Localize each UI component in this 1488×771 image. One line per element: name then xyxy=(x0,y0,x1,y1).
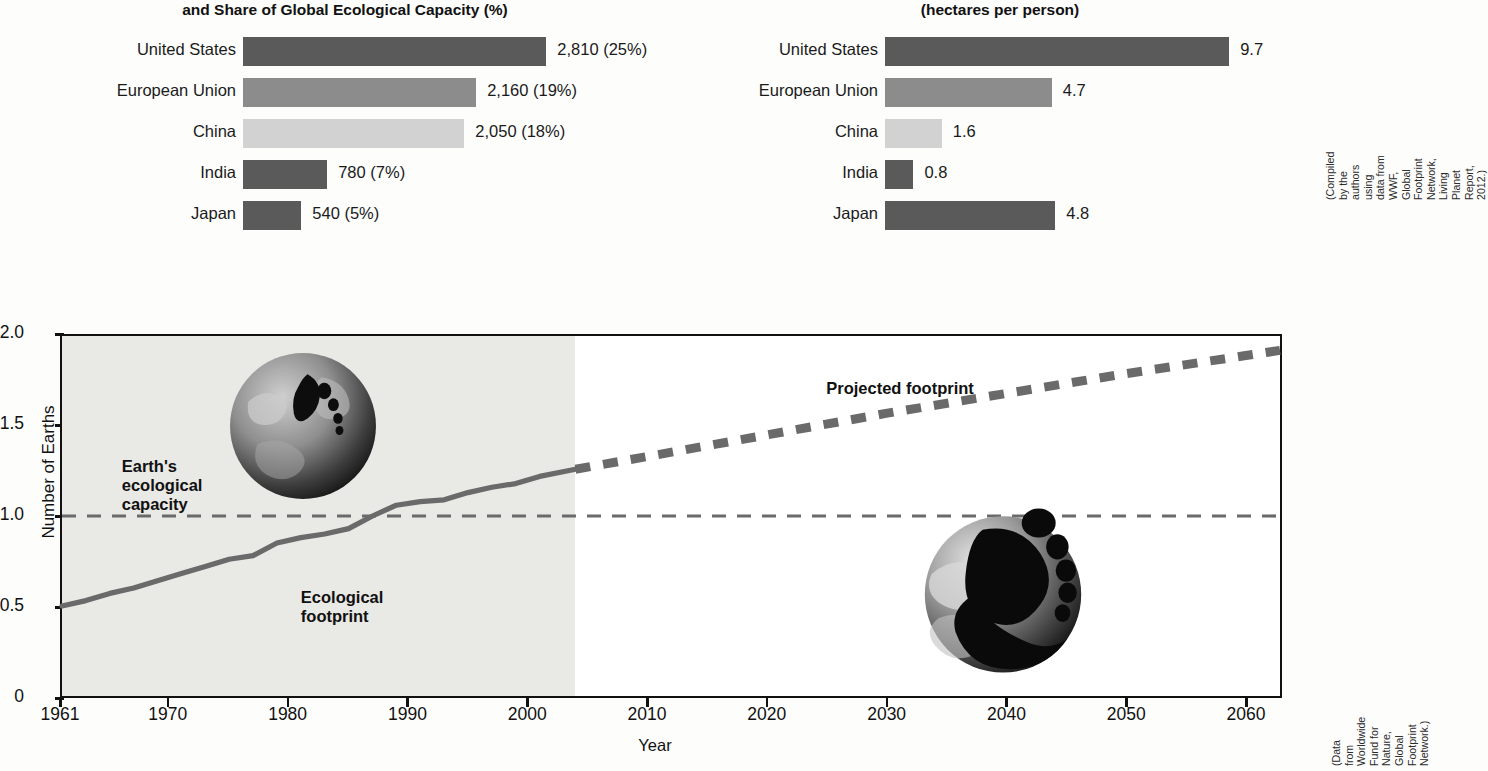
bar-value-label: 540 (5%) xyxy=(312,204,379,223)
bar-value-label: 780 (7%) xyxy=(338,163,405,182)
bar-category-label: United States xyxy=(690,40,878,59)
x-axis-tick-mark xyxy=(167,698,170,707)
x-axis-tick-mark xyxy=(526,698,529,707)
projected-footprint-line xyxy=(575,350,1280,469)
annotation-earths-capacity: Earth's ecological capacity xyxy=(122,457,203,514)
bar-segment xyxy=(885,37,1229,66)
bar-category-label: European Union xyxy=(690,81,878,100)
x-axis-tick-label: 1961 xyxy=(20,704,100,725)
bar-value-label: 2,050 (18%) xyxy=(475,122,565,141)
bar-value-label: 9.7 xyxy=(1240,40,1263,59)
bar-segment xyxy=(885,160,913,189)
x-axis-tick-mark xyxy=(766,698,769,707)
bar-segment xyxy=(885,201,1055,230)
bar-category-label: India xyxy=(0,163,236,182)
left-chart-bar-rows: United States2,810 (25%)European Union2,… xyxy=(0,36,690,241)
globe-footprint-icon-top xyxy=(227,350,379,502)
bar-category-label: China xyxy=(690,122,878,141)
bar-category-label: Japan xyxy=(0,204,236,223)
y-axis-tick-label: 1.5 xyxy=(0,413,24,434)
annotation-ecological-footprint: Ecological footprint xyxy=(301,588,384,626)
x-axis-tick-label: 1970 xyxy=(128,704,208,725)
right-chart-title-line2: (hectares per person) xyxy=(690,1,1310,19)
x-axis-tick-mark xyxy=(646,698,649,707)
bar-row: European Union4.7 xyxy=(690,77,1310,118)
bar-row: India0.8 xyxy=(690,159,1310,200)
x-axis-tick-label: 2000 xyxy=(487,704,567,725)
bar-row: Japan540 (5%) xyxy=(0,200,690,241)
bar-row: Japan4.8 xyxy=(690,200,1310,241)
bar-row: India780 (7%) xyxy=(0,159,690,200)
x-axis-tick-mark xyxy=(406,698,409,707)
bar-category-label: European Union xyxy=(0,81,236,100)
bar-segment xyxy=(243,160,327,189)
x-axis-title: Year xyxy=(0,736,1310,755)
x-axis-tick-label: 1980 xyxy=(248,704,328,725)
y-axis-tick-label: 2.0 xyxy=(0,322,24,343)
plot-area: Earth's ecological capacity Ecological f… xyxy=(60,334,1282,698)
x-axis-tick-mark xyxy=(1245,698,1248,707)
earths-over-time-chart: Number of Earths 00.51.01.52.0 xyxy=(0,312,1310,771)
bar-segment xyxy=(243,78,476,107)
x-axis-tick-label: 2040 xyxy=(966,704,1046,725)
credit-bottom-right: (Data from Worldwide Fund for Nature, Gl… xyxy=(1330,717,1431,766)
bar-segment xyxy=(243,119,464,148)
x-axis-tick-mark xyxy=(886,698,889,707)
bar-value-label: 2,160 (19%) xyxy=(487,81,577,100)
x-axis-tick-label: 2020 xyxy=(727,704,807,725)
bar-segment xyxy=(243,37,546,66)
bar-value-label: 1.6 xyxy=(953,122,976,141)
bar-row: China2,050 (18%) xyxy=(0,118,690,159)
bar-segment xyxy=(885,119,942,148)
bar-category-label: United States xyxy=(0,40,236,59)
bar-row: United States2,810 (25%) xyxy=(0,36,690,77)
bar-value-label: 4.7 xyxy=(1063,81,1086,100)
x-axis-tick-label: 2010 xyxy=(607,704,687,725)
bar-category-label: India xyxy=(690,163,878,182)
bar-value-label: 0.8 xyxy=(924,163,947,182)
bar-segment xyxy=(885,78,1052,107)
bar-row: China1.6 xyxy=(690,118,1310,159)
left-chart-title-line2: and Share of Global Ecological Capacity … xyxy=(0,1,690,19)
x-axis-tick-label: 2050 xyxy=(1086,704,1166,725)
annotation-projected-footprint: Projected footprint xyxy=(826,379,974,398)
x-axis-tick-label: 2060 xyxy=(1206,704,1286,725)
x-axis-tick-mark xyxy=(1125,698,1128,707)
bar-row: United States9.7 xyxy=(690,36,1310,77)
bar-category-label: Japan xyxy=(690,204,878,223)
bar-value-label: 2,810 (25%) xyxy=(557,40,647,59)
bar-row: European Union2,160 (19%) xyxy=(0,77,690,118)
x-axis-tick-label: 2030 xyxy=(847,704,927,725)
globe-footprint-icon-bottom xyxy=(918,506,1088,676)
bar-category-label: China xyxy=(0,122,236,141)
credit-top-right: (Compiled by the authors using data from… xyxy=(1324,152,1488,200)
x-axis-tick-label: 1990 xyxy=(367,704,447,725)
x-axis-tick-mark xyxy=(59,698,62,707)
right-chart-bar-rows: United States9.7European Union4.7China1.… xyxy=(690,36,1310,241)
x-axis-tick-mark xyxy=(1005,698,1008,707)
y-axis-tick-label: 1.0 xyxy=(0,504,24,525)
bar-segment xyxy=(243,201,301,230)
y-axis-tick-label: 0.5 xyxy=(0,595,24,616)
bar-value-label: 4.8 xyxy=(1066,204,1089,223)
x-axis-tick-mark xyxy=(287,698,290,707)
